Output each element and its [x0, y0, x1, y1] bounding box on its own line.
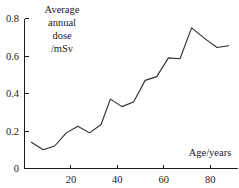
chart-container: 0 0.2 0.4 0.6 0.8 20 40 60 80 Average an… [0, 0, 239, 188]
y-axis-tick-marks [25, 19, 29, 132]
y-axis-title-line-3: dose [52, 30, 72, 41]
y-axis-tick-label-0.6: 0.6 [6, 51, 19, 62]
x-axis-tick-label-60: 60 [158, 174, 169, 185]
y-axis-title: Average annual dose /mSv [45, 4, 80, 54]
y-axis-title-line-4: /mSv [51, 43, 74, 54]
x-axis-tick-label-80: 80 [205, 174, 216, 185]
line-chart: 0 0.2 0.4 0.6 0.8 20 40 60 80 Average an… [0, 0, 239, 188]
y-axis-tick-label-0.2: 0.2 [6, 126, 19, 137]
x-axis-tick-label-40: 40 [112, 174, 123, 185]
x-axis-title: Age/years [189, 147, 232, 158]
x-axis-tick-label-20: 20 [66, 174, 77, 185]
y-axis-tick-label-0.8: 0.8 [6, 13, 19, 24]
y-axis-title-line-2: annual [48, 17, 76, 28]
x-axis-tick-marks [71, 165, 210, 169]
y-axis-tick-label-0: 0 [14, 163, 19, 174]
y-axis-title-line-1: Average [45, 4, 80, 15]
y-axis-tick-label-0.4: 0.4 [6, 88, 20, 99]
